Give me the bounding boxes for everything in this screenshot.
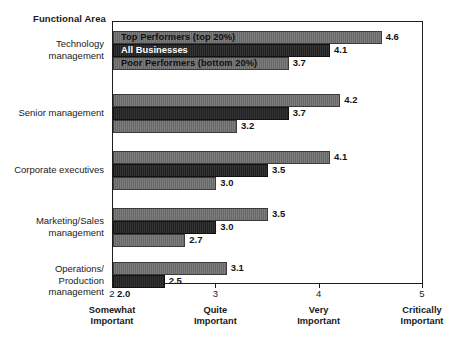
bar bbox=[113, 234, 185, 247]
bar-row: 3.0 bbox=[113, 177, 422, 190]
bar bbox=[113, 151, 330, 164]
bar-row: 4.1All Businesses bbox=[113, 44, 422, 57]
x-axis-tick-caption: Somewhat Important bbox=[57, 305, 167, 327]
bar-row: 3.7Poor Performers (bottom 20%) bbox=[113, 57, 422, 70]
bar-value-label: 3.5 bbox=[268, 163, 285, 176]
bar-value-label: 3.7 bbox=[289, 106, 306, 119]
bar-value-label: 2.5 bbox=[165, 274, 182, 287]
bar-row: 3.2 bbox=[113, 120, 422, 133]
x-axis-tick-label: 3 bbox=[195, 288, 235, 299]
bar-value-label: 2.7 bbox=[185, 233, 202, 246]
x-axis-tick-label: 4 bbox=[299, 288, 339, 299]
bar-value-label: 4.6 bbox=[382, 30, 399, 43]
bar-value-label: 4.1 bbox=[330, 150, 347, 163]
bar-value-label: 3.7 bbox=[289, 56, 306, 69]
category-label: Senior management bbox=[0, 107, 104, 119]
bar-value-label: 3.2 bbox=[237, 119, 254, 132]
bar bbox=[113, 94, 340, 107]
bar bbox=[113, 120, 237, 133]
bar-row: 4.2 bbox=[113, 94, 422, 107]
bar-value-label: 3.0 bbox=[216, 220, 233, 233]
bar-row: 3.5 bbox=[113, 164, 422, 177]
category-label: Marketing/Sales management bbox=[0, 215, 104, 238]
x-axis-tick-caption: Critically Important bbox=[367, 305, 461, 327]
x-axis-tick-caption: Quite Important bbox=[160, 305, 270, 327]
bar bbox=[113, 164, 268, 177]
bar-row: 2.5 bbox=[113, 275, 422, 288]
bar-value-label: 4.2 bbox=[340, 93, 357, 106]
bar-value-label: 3.0 bbox=[216, 176, 233, 189]
bar-row: 2.7 bbox=[113, 234, 422, 247]
plot-area: 4.6Top Performers (top 20%)4.1All Busine… bbox=[112, 21, 423, 284]
bar-value-label: 3.5 bbox=[268, 207, 285, 220]
x-axis-tick-caption: Very Important bbox=[264, 305, 374, 327]
bar-value-label: 4.1 bbox=[330, 43, 347, 56]
bar bbox=[113, 57, 289, 70]
bar-row: 3.1 bbox=[113, 262, 422, 275]
category-label: Corporate executives bbox=[0, 164, 104, 176]
x-axis-tick-label: 5 bbox=[402, 288, 442, 299]
bar-row: 4.6Top Performers (top 20%) bbox=[113, 31, 422, 44]
bar bbox=[113, 107, 289, 120]
bar-chart: Functional Area 4.6Top Performers (top 2… bbox=[0, 0, 461, 339]
bar-row: 3.5 bbox=[113, 208, 422, 221]
bar-value-label: 3.1 bbox=[227, 261, 244, 274]
bar-row: 3.0 bbox=[113, 221, 422, 234]
category-label: Technology management bbox=[0, 38, 104, 61]
x-axis-tick-label: 2 bbox=[92, 288, 132, 299]
bar bbox=[113, 208, 268, 221]
bar-row: 2.0 bbox=[113, 288, 422, 301]
category-label: Operations/ Production management bbox=[0, 263, 104, 298]
bar-row: 3.7 bbox=[113, 107, 422, 120]
bar bbox=[113, 177, 216, 190]
y-axis-title: Functional Area bbox=[33, 13, 106, 24]
